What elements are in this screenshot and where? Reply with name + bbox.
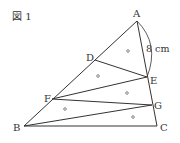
point-label-c: C <box>160 122 168 133</box>
point-label-f: F <box>44 93 51 104</box>
segment-ef <box>52 77 147 99</box>
mark-efg <box>126 92 129 95</box>
segment-de <box>95 60 147 77</box>
figure-lines <box>24 21 157 126</box>
point-label-g: G <box>154 100 162 111</box>
mark-def <box>97 75 100 78</box>
mark-fgb <box>64 108 67 111</box>
mark-ade <box>127 50 130 53</box>
point-label-a: A <box>132 8 141 19</box>
figure-title: 図 1 <box>12 11 32 22</box>
mark-bgc <box>132 116 135 119</box>
point-label-e: E <box>150 75 157 86</box>
geometry-figure: 図 1 A D E F G B C 8 cm <box>0 0 180 143</box>
equal-area-marks <box>64 50 135 119</box>
point-label-d: D <box>86 52 94 63</box>
point-label-b: B <box>13 122 20 133</box>
measurement-label: 8 cm <box>146 43 169 54</box>
segment-fg <box>52 99 152 105</box>
